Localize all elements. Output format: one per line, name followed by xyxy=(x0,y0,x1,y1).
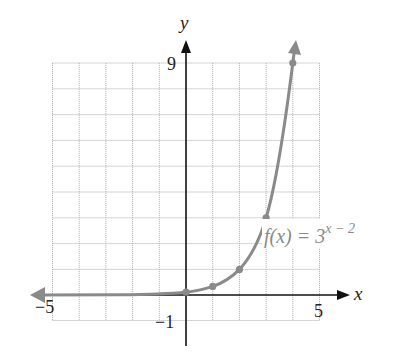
y-max-tick-label: 9 xyxy=(167,54,176,75)
x-max-tick-label: 5 xyxy=(314,301,323,322)
function-label-exponent: x − 2 xyxy=(325,221,355,236)
point-2 xyxy=(236,266,243,273)
x-min-tick-label: −5 xyxy=(35,297,54,318)
y-min-tick-label: −1 xyxy=(155,312,174,333)
x-axis-arrow-icon xyxy=(337,290,350,300)
point-0 xyxy=(182,289,189,296)
function-label-base: f(x) = 3 xyxy=(264,225,325,247)
y-axis-label: y xyxy=(180,12,188,34)
point-4 xyxy=(289,59,296,66)
point-1 xyxy=(209,283,216,290)
axes xyxy=(40,52,340,346)
y-axis-arrow-icon xyxy=(181,40,191,53)
curve-right-arrow-icon xyxy=(288,40,301,55)
function-label: f(x) = 3x − 2 xyxy=(262,219,361,248)
function-curve xyxy=(40,50,295,295)
chart-plot xyxy=(0,0,399,364)
x-axis-label: x xyxy=(354,283,362,305)
